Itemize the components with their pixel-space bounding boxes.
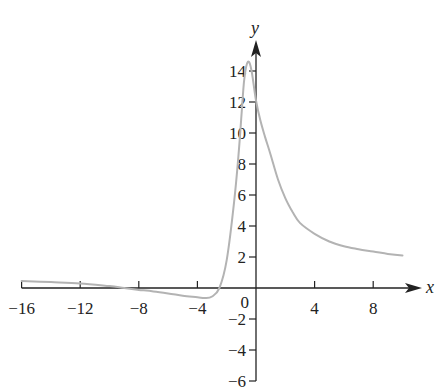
- function-plot: −16−12−8−4480−6−4−22468101214 x y: [0, 0, 442, 392]
- axes: [22, 40, 422, 381]
- y-tick-label: 2: [238, 248, 247, 267]
- x-tick-label: −4: [188, 299, 207, 318]
- function-curve: [22, 61, 403, 298]
- x-axis-label: x: [425, 277, 434, 297]
- y-axis-label: y: [249, 18, 259, 38]
- x-tick-label: 4: [310, 299, 319, 318]
- y-tick-label: −2: [228, 310, 246, 329]
- x-tick-label: −8: [130, 299, 148, 318]
- x-tick-label: −12: [67, 299, 94, 318]
- y-tick-label: 4: [238, 217, 247, 236]
- tick-labels: −16−12−8−4480−6−4−22468101214: [8, 62, 377, 391]
- y-tick-label: 6: [238, 186, 247, 205]
- ticks: [22, 71, 374, 381]
- y-tick-label: 10: [229, 124, 246, 143]
- x-tick-label: 8: [369, 299, 378, 318]
- x-tick-label: −16: [8, 299, 35, 318]
- y-tick-label: −6: [228, 372, 246, 391]
- y-tick-label: −4: [228, 341, 247, 360]
